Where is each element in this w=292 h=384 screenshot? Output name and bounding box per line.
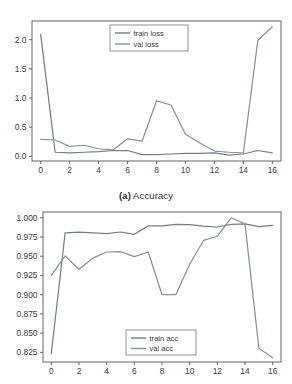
legend-label: train acc bbox=[150, 334, 179, 343]
accuracy-chart-panel: 0.8250.8500.8750.9000.9250.9500.9751.000… bbox=[0, 202, 292, 384]
x-axis-tick-label: 2 bbox=[77, 366, 82, 376]
x-axis-tick-label: 4 bbox=[104, 366, 109, 376]
x-axis-tick-label: 8 bbox=[160, 366, 165, 376]
x-axis-tick-label: 14 bbox=[240, 366, 250, 376]
y-axis-tick-label: 1.0 bbox=[15, 93, 27, 103]
x-axis-tick-label: 8 bbox=[154, 165, 159, 175]
y-axis-tick-label: 0.875 bbox=[17, 309, 38, 319]
y-axis-tick-label: 1.000 bbox=[17, 213, 38, 223]
y-axis-tick-label: 0.5 bbox=[15, 122, 27, 132]
y-axis-tick-label: 0.825 bbox=[17, 347, 38, 357]
figure-caption: (a) Accuracy bbox=[0, 190, 292, 201]
y-axis-tick-label: 1.5 bbox=[15, 64, 27, 74]
loss-chart: 0.00.51.01.52.00246810121416train lossva… bbox=[0, 4, 292, 192]
caption-text: Accuracy bbox=[131, 190, 173, 201]
x-axis-tick-label: 0 bbox=[49, 366, 54, 376]
x-axis-tick-label: 6 bbox=[125, 165, 130, 175]
x-axis-tick-label: 14 bbox=[239, 165, 249, 175]
figure-container: 0.00.51.01.52.00246810121416train lossva… bbox=[0, 0, 292, 384]
x-axis-tick-label: 12 bbox=[213, 366, 223, 376]
x-axis-tick-label: 16 bbox=[268, 366, 278, 376]
y-axis-tick-label: 0.900 bbox=[17, 290, 38, 300]
y-axis-tick-label: 2.0 bbox=[15, 35, 27, 45]
y-axis-tick-label: 0.950 bbox=[17, 251, 38, 261]
y-axis-tick-label: 0.975 bbox=[17, 232, 38, 242]
x-axis-tick-label: 12 bbox=[210, 165, 220, 175]
x-axis-tick-label: 16 bbox=[268, 165, 278, 175]
caption-marker: (a) bbox=[119, 190, 131, 201]
legend-label: val loss bbox=[134, 40, 160, 49]
y-axis-tick-label: 0.925 bbox=[17, 270, 38, 280]
loss-chart-panel: 0.00.51.01.52.00246810121416train lossva… bbox=[0, 4, 292, 192]
x-axis-tick-label: 10 bbox=[181, 165, 191, 175]
x-axis-tick-label: 0 bbox=[38, 165, 43, 175]
y-axis-tick-label: 0.850 bbox=[17, 328, 38, 338]
x-axis-tick-label: 2 bbox=[67, 165, 72, 175]
x-axis-tick-label: 6 bbox=[132, 366, 137, 376]
legend-label: val acc bbox=[150, 344, 174, 353]
y-axis-tick-label: 0.0 bbox=[15, 151, 27, 161]
x-axis-tick-label: 10 bbox=[185, 366, 195, 376]
legend-label: train loss bbox=[134, 29, 165, 38]
accuracy-chart: 0.8250.8500.8750.9000.9250.9500.9751.000… bbox=[0, 202, 292, 384]
x-axis-tick-label: 4 bbox=[96, 165, 101, 175]
